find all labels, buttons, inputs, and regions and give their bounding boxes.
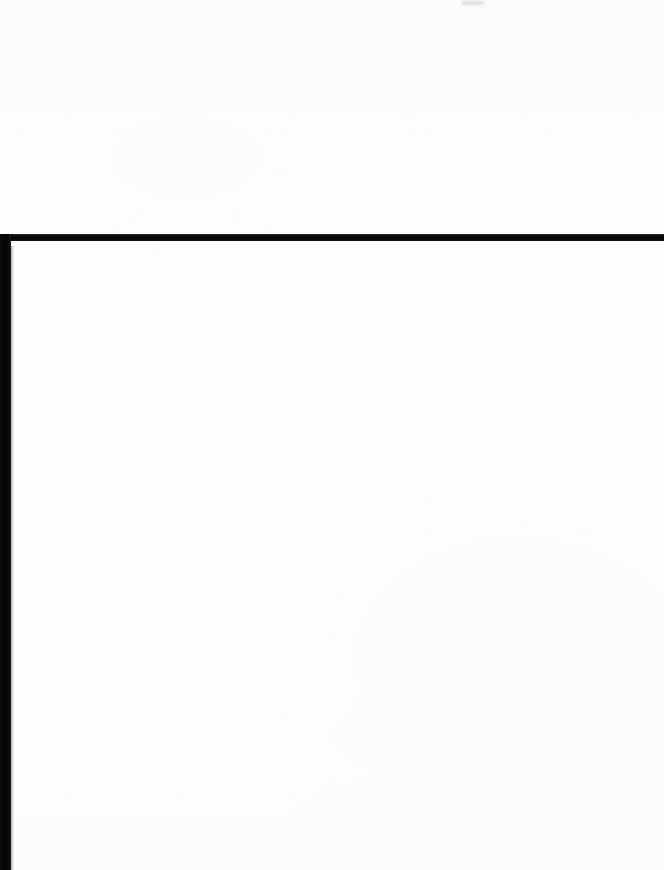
scan-edge-vertical-band xyxy=(0,234,11,870)
scan-edge-corner-notch xyxy=(11,241,15,246)
scanned-page xyxy=(0,0,664,870)
paper-lower-panel xyxy=(0,241,664,870)
scan-edge-horizontal-rule xyxy=(10,234,664,241)
paper-upper-panel xyxy=(0,0,664,234)
